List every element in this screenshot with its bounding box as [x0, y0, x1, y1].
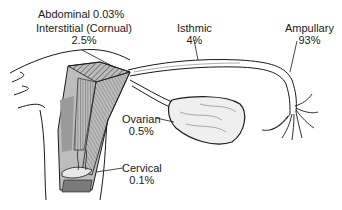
label-isthmic-name: Isthmic: [177, 22, 212, 34]
label-abdominal-text: Abdominal 0.03%: [38, 8, 124, 20]
label-ampullary-percent: 93%: [285, 34, 334, 46]
label-cervical: Cervical 0.1%: [122, 162, 162, 186]
label-ovarian-percent: 0.5%: [122, 125, 161, 137]
label-interstitial-percent: 2.5%: [36, 34, 132, 46]
uterine-cavity-section: [58, 62, 130, 192]
label-isthmic-percent: 4%: [177, 34, 212, 46]
label-ampullary: Ampullary 93%: [285, 22, 334, 46]
label-interstitial: Interstitial (Cornual) 2.5%: [36, 22, 132, 46]
label-abdominal: Abdominal 0.03%: [38, 8, 124, 20]
cervical-leader-line: [96, 168, 123, 172]
label-cervical-percent: 0.1%: [122, 174, 162, 186]
ovarian-ligament: [130, 80, 172, 108]
label-ampullary-name: Ampullary: [285, 22, 334, 34]
ovary: [169, 97, 245, 144]
label-isthmic: Isthmic 4%: [177, 22, 212, 46]
ectopic-pregnancy-diagram: Abdominal 0.03% Interstitial (Cornual) 2…: [0, 0, 342, 210]
label-ovarian-name: Ovarian: [122, 113, 161, 125]
label-cervical-name: Cervical: [122, 162, 162, 174]
label-ovarian: Ovarian 0.5%: [122, 113, 161, 137]
label-interstitial-name: Interstitial (Cornual): [36, 22, 132, 34]
